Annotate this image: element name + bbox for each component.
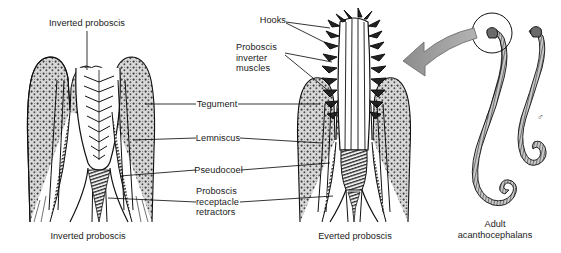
caption-adult-acanthocephalans: Adult acanthocephalans	[440, 219, 550, 241]
label-proboscis-inverter-muscles: Proboscis inverter muscles	[236, 42, 296, 74]
label-proboscis-receptacle-retractors: Proboscis receptacle retractors	[196, 186, 254, 218]
female-symbol: ♀	[484, 112, 491, 123]
diagram-artwork	[0, 0, 561, 253]
everted-proboscis-specimen	[298, 8, 411, 222]
caption-inverted-proboscis: Inverted proboscis	[18, 231, 158, 242]
caption-everted-proboscis: Everted proboscis	[285, 231, 425, 242]
label-lemniscus: Lemniscus	[194, 133, 242, 144]
label-tegument: Tegument	[194, 99, 240, 110]
label-hooks: Hooks	[236, 15, 286, 26]
figure-acanthocephalan-anatomy: Inverted proboscis Hooks Proboscis inver…	[0, 0, 561, 253]
label-pseudocoel: Pseudocoel	[194, 165, 243, 176]
label-inverted-proboscis-top: Inverted proboscis	[27, 18, 147, 29]
adult-worms-illustration	[403, 13, 546, 206]
male-symbol: ♂	[537, 112, 544, 123]
